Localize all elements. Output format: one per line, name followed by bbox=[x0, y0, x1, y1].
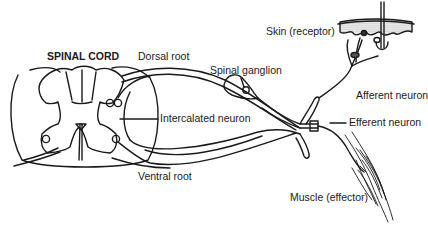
efferent-neuron-path bbox=[318, 123, 364, 172]
skin-receptor bbox=[338, 2, 414, 58]
label-ventral-root: Ventral root bbox=[138, 171, 192, 182]
label-efferent-neuron: Efferent neuron bbox=[349, 117, 421, 128]
label-spinal-cord: SPINAL CORD bbox=[47, 51, 119, 62]
label-skin-receptor: Skin (receptor) bbox=[266, 26, 335, 37]
label-afferent-neuron: Afferent neuron bbox=[356, 90, 428, 101]
ventral-root bbox=[14, 133, 296, 168]
label-muscle-effector: Muscle (effector) bbox=[290, 192, 368, 203]
label-intercalated-neuron: Intercalated neuron bbox=[160, 113, 250, 124]
muscle-effector bbox=[345, 132, 393, 222]
label-dorsal-root: Dorsal root bbox=[138, 51, 189, 62]
label-spinal-ganglion: Spinal ganglion bbox=[210, 65, 282, 76]
